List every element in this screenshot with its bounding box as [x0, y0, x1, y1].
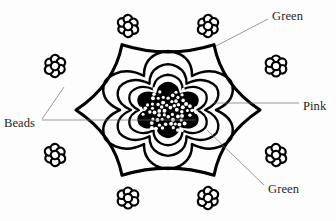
core-bead-dot — [188, 114, 191, 117]
core-bead-dot — [176, 115, 180, 119]
core-bead-dot — [148, 110, 151, 113]
core-bead-dot — [173, 104, 177, 108]
core-bead-dot — [153, 87, 157, 91]
core-bead-dot — [155, 127, 158, 130]
core-bead-dot — [183, 122, 187, 126]
core-bead-dot — [184, 102, 188, 106]
core-bead-dot — [176, 96, 179, 99]
beaded-doily-diagram: GreenPinkGreenBeads — [0, 0, 336, 221]
core-bead-dot — [144, 107, 148, 111]
core-bead-dot — [163, 109, 167, 113]
core-bead-dot — [151, 107, 154, 110]
core-bead-dot — [150, 126, 154, 130]
core-bead-dot — [170, 100, 173, 103]
annotation-label-beads-left: Beads — [4, 116, 35, 130]
core-bead-dot — [164, 122, 168, 126]
core-bead-dot — [194, 106, 197, 109]
core-bead-dot — [142, 113, 145, 116]
core-bead-dot — [181, 105, 185, 109]
core-bead-dot — [166, 115, 170, 119]
core-bead-dot — [146, 103, 149, 106]
core-bead-dot — [180, 110, 183, 113]
core-bead-dot — [171, 94, 175, 98]
core-bead-dot — [160, 105, 164, 109]
core-bead-dot — [169, 106, 173, 110]
core-bead-dot — [151, 96, 155, 100]
core-bead-dot — [163, 113, 166, 116]
core-bead-dot — [175, 108, 179, 112]
core-bead-dot — [161, 101, 165, 105]
core-bead-dot — [182, 88, 185, 91]
core-bead-dot — [169, 122, 173, 126]
core-bead-dot — [161, 126, 164, 129]
core-bead-dot — [158, 124, 161, 127]
core-bead-dot — [157, 113, 161, 117]
core-bead-dot — [157, 109, 161, 113]
annotation-label-green-top: Green — [272, 9, 304, 23]
core-bead-dot — [174, 122, 177, 125]
core-bead-dot — [178, 123, 182, 127]
core-bead-dot — [166, 96, 169, 99]
core-bead-dot — [186, 109, 189, 112]
core-bead-dot — [180, 114, 184, 118]
core-bead-dot — [190, 109, 194, 113]
core-bead-dot — [194, 110, 198, 114]
core-bead-dot — [153, 111, 157, 115]
core-bead-dot — [157, 97, 160, 100]
core-bead-dot — [165, 104, 168, 107]
core-bead-dot — [158, 90, 161, 93]
core-bead-dot — [156, 103, 159, 106]
figure-canvas: GreenPinkGreenBeads — [0, 0, 336, 221]
core-bead-dot — [139, 106, 143, 110]
core-bead-dot — [180, 129, 183, 132]
core-bead-dot — [152, 92, 156, 96]
bead-cluster-right-upper — [266, 56, 287, 77]
core-bead-dot — [176, 128, 180, 132]
core-bead-dot — [171, 113, 174, 116]
annotation-label-green-bottom: Green — [268, 182, 300, 196]
core-bead-dot — [174, 91, 177, 94]
annotation-label-pink-right: Pink — [303, 99, 327, 113]
bead-cluster-bottom-left — [118, 188, 139, 209]
core-bead-dot — [162, 96, 165, 99]
core-bead-dot — [177, 103, 181, 107]
core-bead-dot — [180, 93, 183, 96]
core-bead-dot — [188, 104, 192, 108]
core-bead-dot — [172, 126, 175, 129]
core-bead-dot — [150, 121, 154, 125]
core-bead-dot — [174, 99, 178, 103]
core-bead-dot — [151, 102, 154, 105]
core-bead-dot — [181, 99, 185, 103]
